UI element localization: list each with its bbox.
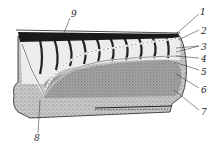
label-4: 4 xyxy=(200,54,207,64)
label-7: 7 xyxy=(201,107,207,117)
label-3: 3 xyxy=(201,42,207,52)
label-5: 5 xyxy=(201,67,207,77)
label-2: 2 xyxy=(200,26,207,36)
label-9: 9 xyxy=(71,9,77,19)
label-1: 1 xyxy=(200,7,206,17)
anatomical-diagram: 9 1 2 3 4 5 6 7 8 xyxy=(0,0,217,148)
label-8: 8 xyxy=(34,133,40,143)
label-6: 6 xyxy=(201,85,207,95)
